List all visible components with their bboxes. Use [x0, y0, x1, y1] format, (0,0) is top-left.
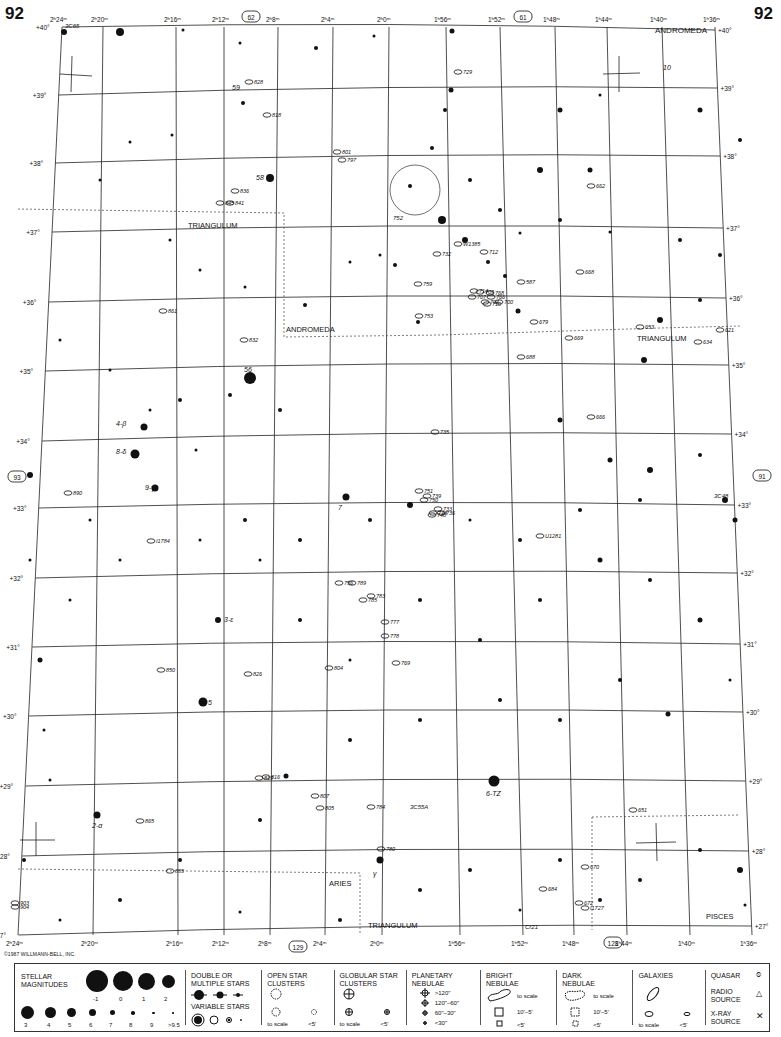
constellation-name: ARIES: [329, 879, 352, 888]
star: [199, 269, 202, 272]
dec-label-right: +32°: [740, 570, 754, 577]
galaxy-label: 816: [271, 774, 281, 780]
galaxy-marker: [431, 430, 439, 434]
galaxy-marker: [587, 415, 595, 419]
star: [278, 408, 282, 412]
star-label: 7: [338, 504, 343, 511]
galaxy-marker: [136, 819, 144, 823]
dec-label-left: +39°: [33, 92, 47, 99]
star: [469, 519, 472, 522]
constellation-name: PISCES: [706, 912, 734, 921]
star: [518, 538, 522, 542]
legend-mid: 10'–5': [593, 1008, 609, 1016]
galaxy-marker: [245, 80, 253, 84]
star-label: 4-β: [116, 420, 126, 428]
legend-small: <5': [308, 1020, 316, 1028]
galaxy-label: 804: [334, 665, 343, 671]
ra-label-top: 2ʰ20ᵐ: [91, 16, 108, 23]
galaxy-label: 828: [254, 79, 264, 85]
star-label: 6-TZ: [486, 790, 502, 797]
galaxy-label: 662: [596, 183, 605, 189]
quasar-label: 3C48: [714, 493, 729, 499]
galaxy-label: 684: [548, 886, 557, 892]
dec-label-right: +34°: [735, 431, 749, 438]
star: [377, 857, 384, 864]
star: [338, 918, 342, 922]
magnitude-label: 9: [150, 1021, 153, 1029]
dec-label-left: +27°: [0, 932, 6, 939]
star: [59, 919, 62, 922]
ra-label-bottom: 2ʰ0ᵐ: [370, 940, 384, 947]
galaxy-label: 669: [574, 335, 583, 341]
galaxy-label: 712: [489, 249, 498, 255]
star: [303, 303, 307, 307]
legend-stellar-magnitudes: STELLAR MAGNITUDES -1012 3456789>9.5: [15, 970, 186, 1025]
ra-label-top: 1ʰ44ᵐ: [595, 16, 612, 23]
galaxy-marker: [629, 808, 637, 812]
magnitude-dot: [113, 971, 133, 991]
legend: STELLAR MAGNITUDES -1012 3456789>9.5 DOU…: [14, 963, 770, 1032]
star: [38, 658, 43, 663]
star: [349, 659, 352, 662]
cross-mark: [20, 822, 55, 856]
galaxy-marker: [480, 250, 488, 254]
legend-quasar-radio-xray: QUASAR ⦸ RADIO SOURCE △ X-RAY SOURCE ✕: [706, 970, 769, 1025]
ra-label-top: 1ʰ40ᵐ: [650, 16, 667, 23]
magnitude-label: 8: [129, 1021, 132, 1029]
star-chart: +40°+40°+39°+39°+38°+38°+37°+37°+36°+36°…: [0, 0, 781, 960]
quasar-icon: ⦸: [756, 971, 761, 979]
star: [379, 254, 382, 257]
galaxy-label: W1385: [463, 241, 481, 247]
star-label: 59: [232, 84, 240, 91]
legend-double-title: DOUBLE OR MULTIPLE STARS: [191, 972, 257, 988]
galaxy-label: 801: [342, 149, 351, 155]
galaxy-marker: [536, 534, 544, 538]
star: [503, 274, 507, 278]
cross-mark: [636, 823, 676, 861]
radio-source-label: 3C65: [65, 23, 80, 29]
legend-to-scale: to scale: [340, 1020, 361, 1028]
galaxy-marker: [231, 189, 239, 193]
star: [698, 618, 703, 623]
galaxy-marker: [325, 666, 333, 670]
galaxy-marker: [565, 336, 573, 340]
magnitude-label: 1: [142, 995, 145, 1003]
star-label: 9-γ: [145, 484, 155, 492]
star-label: γ: [373, 870, 377, 878]
galaxy-label: 778: [390, 633, 400, 639]
legend-galaxies-title: GALAXIES: [638, 972, 673, 980]
galaxy-marker: [415, 489, 423, 493]
star: [349, 261, 352, 264]
star: [698, 848, 702, 852]
ra-meridian: [607, 27, 627, 935]
legend-to-scale: to scale: [517, 992, 538, 1000]
dec-label-left: +33°: [13, 505, 27, 512]
star: [641, 357, 647, 363]
star: [407, 502, 413, 508]
magnitude-label: 6: [89, 1021, 92, 1029]
galaxy-label: 855: [175, 868, 185, 874]
galaxy-label: 805: [325, 805, 335, 811]
legend-small: <5': [517, 1021, 525, 1029]
cluster-752-outline: [390, 165, 440, 215]
star: [438, 216, 446, 224]
star-label: 5: [208, 699, 212, 706]
galaxy-marker: [147, 539, 155, 543]
galaxy-marker: [392, 661, 400, 665]
legend-small: <5': [381, 1020, 389, 1028]
galaxy-label: 845: [225, 200, 235, 206]
legend-to-scale: to scale: [593, 992, 614, 1000]
star-label: 10: [663, 64, 671, 71]
galaxy-label: 688: [526, 354, 536, 360]
galaxy-label: 783: [376, 593, 386, 599]
legend-radio-label: RADIO SOURCE: [711, 988, 747, 1004]
dec-label-right: +37°: [726, 225, 740, 232]
galaxy-label: 836: [240, 188, 250, 194]
star: [89, 519, 92, 522]
star-label: 8-δ: [116, 448, 126, 455]
galaxy-marker: [581, 906, 589, 910]
legend-small: <5': [593, 1021, 601, 1029]
constellation-name: TRIANGULUM: [368, 921, 418, 930]
galaxy-marker: [716, 328, 724, 332]
constellation-name: TRIANGULUM: [637, 334, 687, 343]
